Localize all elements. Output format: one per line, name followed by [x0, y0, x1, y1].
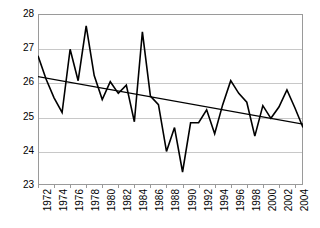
x-tick-label-2000: 2000 [268, 189, 278, 211]
y-tick-label-23: 23 [8, 180, 34, 190]
chart-container: 282726252423 197219741976197819801982198… [0, 0, 320, 228]
x-tick-label-1992: 1992 [204, 189, 214, 211]
x-tick-1996 [231, 185, 232, 188]
linear-trendline [38, 77, 303, 125]
x-tick-label-1986: 1986 [155, 189, 165, 211]
chart-series-layer [38, 14, 303, 185]
x-tick-1974 [54, 185, 55, 188]
y-tick-label-27: 27 [8, 43, 34, 53]
x-tick-label-1990: 1990 [188, 189, 198, 211]
x-tick-2000 [263, 185, 264, 188]
x-tick-label-1984: 1984 [139, 189, 149, 211]
x-tick-2002 [279, 185, 280, 188]
x-tick-1994 [215, 185, 216, 188]
y-tick-label-28: 28 [8, 9, 34, 19]
x-tick-1986 [150, 185, 151, 188]
x-tick-1990 [183, 185, 184, 188]
x-tick-1982 [118, 185, 119, 188]
x-tick-label-1974: 1974 [59, 189, 69, 211]
x-tick-label-1994: 1994 [220, 189, 230, 211]
x-tick-1998 [247, 185, 248, 188]
x-tick-2004 [295, 185, 296, 188]
x-tick-label-1998: 1998 [252, 189, 262, 211]
x-tick-label-1978: 1978 [91, 189, 101, 211]
x-tick-1976 [70, 185, 71, 188]
x-tick-1978 [86, 185, 87, 188]
x-tick-1988 [166, 185, 167, 188]
y-tick-label-25: 25 [8, 112, 34, 122]
x-tick-1980 [102, 185, 103, 188]
x-tick-label-1980: 1980 [107, 189, 117, 211]
y-tick-label-24: 24 [8, 146, 34, 156]
x-tick-label-1996: 1996 [236, 189, 246, 211]
x-tick-label-1988: 1988 [171, 189, 181, 211]
x-tick-label-1976: 1976 [75, 189, 85, 211]
observed-data-line [38, 26, 303, 172]
x-tick-label-2002: 2002 [284, 189, 294, 211]
x-tick-label-1982: 1982 [123, 189, 133, 211]
x-tick-1992 [199, 185, 200, 188]
y-tick-label-26: 26 [8, 77, 34, 87]
x-tick-label-2004: 2004 [300, 189, 310, 211]
x-tick-label-1972: 1972 [43, 189, 53, 211]
x-tick-1972 [38, 185, 39, 188]
x-tick-1984 [134, 185, 135, 188]
